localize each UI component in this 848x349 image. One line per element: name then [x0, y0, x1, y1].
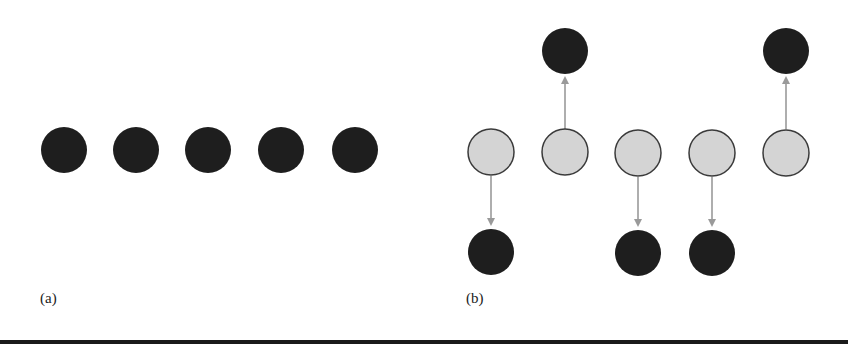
arrow-down-icon [634, 219, 642, 227]
panel-a [41, 127, 378, 173]
light-node [542, 129, 588, 175]
diagram-canvas [0, 0, 848, 349]
dark-node [763, 28, 809, 74]
panel-b-label: (b) [466, 290, 484, 307]
dark-node [113, 127, 159, 173]
light-node [763, 130, 809, 176]
arrow-down-icon [487, 218, 495, 226]
dark-node [41, 127, 87, 173]
light-node [468, 129, 514, 175]
dark-node [468, 229, 514, 275]
dark-node [332, 127, 378, 173]
arrow-down-icon [708, 219, 716, 227]
panel-b [468, 28, 809, 276]
dark-node [689, 230, 735, 276]
light-node [615, 130, 661, 176]
light-node [689, 130, 735, 176]
panel-a-label: (a) [40, 290, 57, 307]
arrow-up-icon [561, 76, 569, 84]
arrow-up-icon [782, 76, 790, 84]
bottom-rule [0, 340, 848, 344]
dark-node [185, 127, 231, 173]
dark-node [542, 28, 588, 74]
dark-node [258, 127, 304, 173]
dark-node [615, 230, 661, 276]
